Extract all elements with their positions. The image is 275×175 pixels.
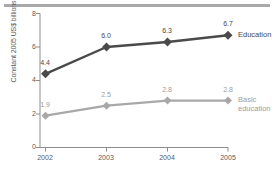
data-label-basic-education-2002: 1.9	[32, 101, 58, 109]
data-label-basic-education-2003: 2.5	[93, 91, 119, 99]
series-line-education	[46, 35, 229, 74]
data-label-basic-education-2005: 2.8	[215, 86, 241, 94]
data-label-education-2005: 6.7	[215, 20, 241, 28]
data-label-education-2004: 6.3	[154, 27, 180, 35]
data-label-education-2002: 4.4	[32, 59, 58, 67]
chart-figure: Constant 2005 US$ billions 8 6 4 2 0 200…	[0, 0, 275, 175]
series-label-basic-education: Basic education	[238, 96, 271, 113]
series-line-basic-education	[46, 101, 229, 116]
series-label-education: Education	[238, 31, 271, 40]
data-label-education-2003: 6.0	[93, 32, 119, 40]
series-label-basic-education-line2: education	[238, 105, 271, 114]
data-label-basic-education-2004: 2.8	[154, 86, 180, 94]
